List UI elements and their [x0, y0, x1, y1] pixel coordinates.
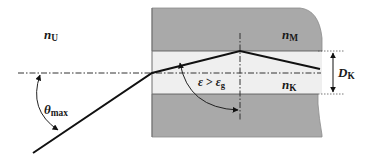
label-symbol: θ [44, 102, 51, 117]
core-index-label: nK [282, 78, 297, 94]
acceptance-angle-label: θmax [44, 103, 68, 119]
label-subscript: g [221, 80, 225, 90]
label-subscript: U [51, 33, 58, 43]
label-symbol: ε [198, 75, 203, 89]
label-symbol: D [338, 65, 347, 80]
fiber-diagram [0, 0, 369, 157]
reflection-angle-label: ε > εg [198, 76, 225, 90]
cladding-index-label: nM [282, 28, 298, 44]
label-subscript: K [289, 83, 296, 93]
label-relation: > [206, 75, 213, 89]
label-subscript: K [347, 71, 354, 81]
label-subscript: max [51, 108, 68, 118]
outer-medium-index-label: nU [44, 28, 58, 44]
cladding-region-lower [152, 94, 322, 137]
core-diameter-label: DK [338, 66, 355, 82]
label-subscript: M [289, 33, 298, 43]
